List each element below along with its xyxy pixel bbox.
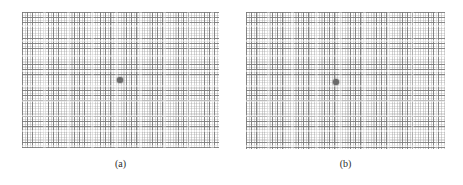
fixation-dot-b [333, 79, 339, 85]
panel-label-a: (a) [22, 158, 219, 170]
panel-label-b: (b) [246, 158, 445, 170]
grid-panel-b [246, 12, 445, 149]
amsler-grid-b [246, 12, 445, 149]
grid-panel-a [22, 12, 219, 148]
fixation-dot-a [117, 77, 123, 83]
figure-root: (a) (b) [0, 0, 463, 185]
